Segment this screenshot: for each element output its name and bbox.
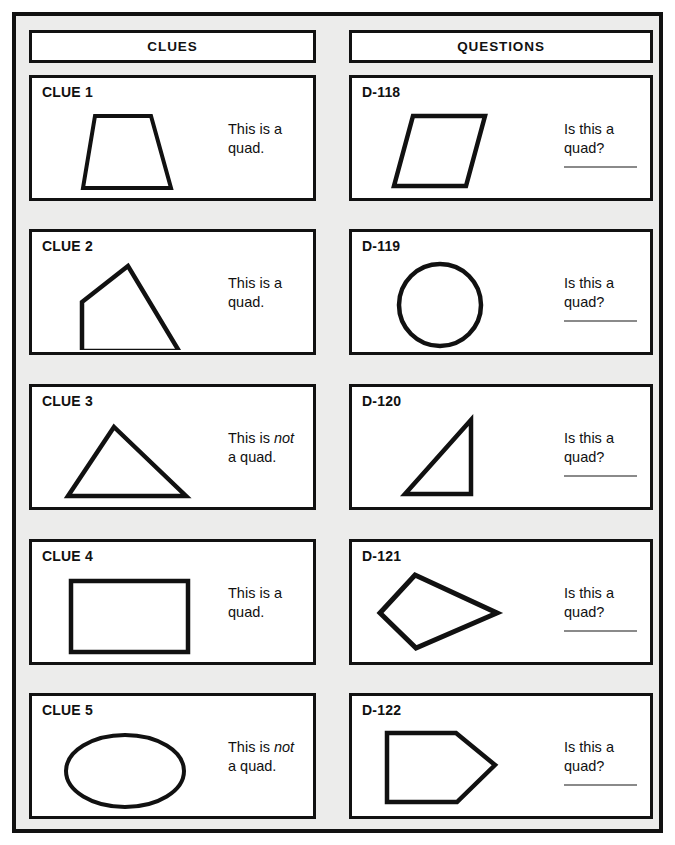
clue-card-3-text-after: a quad. <box>228 449 276 465</box>
question-card-d118-prompt: Is this a quad? <box>564 120 614 158</box>
question-card-d121: D-121 Is this a quad? <box>349 539 653 665</box>
column-header-questions: QUESTIONS <box>349 30 653 63</box>
question-card-d122: D-122 Is this a quad? <box>349 693 653 819</box>
clue-card-3-text-emphasis: not <box>274 430 294 446</box>
worksheet-page: CLUES QUESTIONS CLUE 1 This is a quad. D… <box>0 0 675 845</box>
question-card-d119-answer-blank[interactable] <box>564 320 637 322</box>
clue-card-5-text: This is not a quad. <box>228 738 294 776</box>
clue-figure-trapezoid <box>38 100 218 196</box>
clue-card-4: CLUE 4 This is a quad. <box>29 539 316 665</box>
clue-figure-ellipse <box>38 718 218 814</box>
clue-card-2: CLUE 2 This is a quad. <box>29 229 316 355</box>
question-card-d118: D-118 Is this a quad? <box>349 75 653 201</box>
clue-card-4-text: This is a quad. <box>228 584 282 622</box>
clue-card-1-text-before: This is a <box>228 121 282 137</box>
clue-card-2-title: CLUE 2 <box>42 238 93 254</box>
column-header-questions-label: QUESTIONS <box>457 39 545 54</box>
question-card-d122-prompt: Is this a quad? <box>564 738 614 776</box>
clue-card-3: CLUE 3 This is not a quad. <box>29 384 316 510</box>
question-card-d119-title: D-119 <box>362 238 400 254</box>
clue-card-2-text-before: This is a <box>228 275 282 291</box>
clue-card-3-text: This is not a quad. <box>228 429 294 467</box>
question-card-d119: D-119 Is this a quad? <box>349 229 653 355</box>
clue-card-4-text-after: quad. <box>228 604 264 620</box>
question-figure-pentagon-arrow <box>358 718 548 814</box>
question-figure-right-triangle <box>358 409 548 505</box>
clue-card-4-text-before: This is a <box>228 585 282 601</box>
question-card-d121-prompt: Is this a quad? <box>564 584 614 622</box>
worksheet-frame: CLUES QUESTIONS CLUE 1 This is a quad. D… <box>12 12 663 833</box>
clue-figure-rectangle <box>38 564 218 660</box>
clue-card-1-text-after: quad. <box>228 140 264 156</box>
column-header-clues: CLUES <box>29 30 316 63</box>
question-card-d120-prompt: Is this a quad? <box>564 429 614 467</box>
question-card-d122-title: D-122 <box>362 702 401 718</box>
question-figure-circle <box>358 254 548 350</box>
clue-card-1-title: CLUE 1 <box>42 84 93 100</box>
worksheet-frame-inner: CLUES QUESTIONS CLUE 1 This is a quad. D… <box>16 16 659 829</box>
question-card-d119-prompt: Is this a quad? <box>564 274 614 312</box>
question-figure-parallelogram <box>358 100 548 196</box>
clue-figure-triangle <box>38 409 218 505</box>
clue-card-2-text-after: quad. <box>228 294 264 310</box>
clue-card-5-title: CLUE 5 <box>42 702 93 718</box>
question-card-d121-title: D-121 <box>362 548 401 564</box>
clue-card-4-title: CLUE 4 <box>42 548 93 564</box>
clue-card-3-text-before: This is <box>228 430 274 446</box>
clue-card-1: CLUE 1 This is a quad. <box>29 75 316 201</box>
question-card-d120-answer-blank[interactable] <box>564 475 637 477</box>
clue-card-2-text: This is a quad. <box>228 274 282 312</box>
clue-card-5: CLUE 5 This is not a quad. <box>29 693 316 819</box>
clue-card-5-text-after: a quad. <box>228 758 276 774</box>
question-card-d118-answer-blank[interactable] <box>564 166 637 168</box>
question-card-d121-answer-blank[interactable] <box>564 630 637 632</box>
question-card-d118-title: D-118 <box>362 84 400 100</box>
clue-card-3-title: CLUE 3 <box>42 393 93 409</box>
column-header-clues-label: CLUES <box>147 39 197 54</box>
clue-card-1-text: This is a quad. <box>228 120 282 158</box>
question-card-d120-title: D-120 <box>362 393 401 409</box>
question-card-d120: D-120 Is this a quad? <box>349 384 653 510</box>
question-card-d122-answer-blank[interactable] <box>564 784 637 786</box>
clue-card-5-text-emphasis: not <box>274 739 294 755</box>
question-figure-kite <box>358 564 548 660</box>
clue-card-5-text-before: This is <box>228 739 274 755</box>
clue-figure-irregular-quadrilateral <box>38 254 218 350</box>
